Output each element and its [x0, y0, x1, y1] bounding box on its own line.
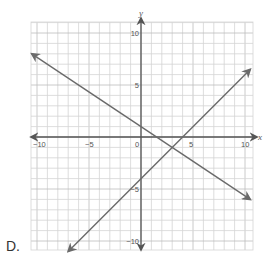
- x-tick-label: 0: [135, 140, 139, 149]
- y-tick-label: 10: [131, 29, 139, 38]
- coordinate-plane: xy −10−50510105−5−10: [0, 0, 277, 266]
- y-axis-label: y: [138, 8, 143, 18]
- y-tick-label: −10: [126, 237, 139, 246]
- y-tick-label: −5: [130, 185, 139, 194]
- x-tick-label: −10: [33, 140, 46, 149]
- x-tick-label: 5: [189, 140, 193, 149]
- grid: [31, 22, 253, 250]
- x-tick-label: 10: [241, 140, 249, 149]
- y-tick-label: 5: [135, 81, 139, 90]
- x-axis-label: x: [257, 132, 262, 142]
- x-tick-label: −5: [85, 140, 94, 149]
- axes: xy: [31, 8, 262, 250]
